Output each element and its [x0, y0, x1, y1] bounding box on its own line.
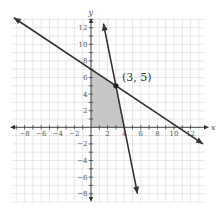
point-label: (3, 5): [122, 71, 152, 84]
y-tick-label: 4: [83, 91, 88, 99]
x-tick-label: 2: [105, 130, 109, 138]
x-tick-label: 6: [139, 130, 144, 138]
y-tick-label: −4: [77, 157, 88, 165]
y-tick-label: −6: [77, 174, 88, 182]
intersection-point: [113, 83, 118, 88]
y-tick-label: 2: [83, 107, 87, 115]
y-tick-label: 10: [79, 41, 88, 49]
arrowhead-icon: [196, 138, 203, 144]
x-tick-label: −2: [69, 130, 79, 138]
x-tick-label: 8: [155, 130, 159, 138]
arrowhead-icon: [133, 186, 139, 193]
arrowhead-icon: [14, 18, 21, 24]
linear-inequality-graph: −8−6−4−224681012−8−6−4−224681012 (3, 5) …: [0, 0, 220, 216]
arrowhead-icon: [102, 24, 108, 31]
x-tick-label: −6: [36, 130, 47, 138]
y-tick-label: −8: [77, 190, 87, 198]
y-tick-label: −2: [77, 140, 87, 148]
x-tick-label: −4: [53, 130, 64, 138]
y-tick-label: 12: [79, 24, 88, 32]
x-tick-label: −8: [19, 130, 29, 138]
y-tick-label: 6: [83, 74, 88, 82]
y-axis-label: y: [88, 8, 94, 17]
x-axis-label: x: [211, 123, 216, 132]
x-tick-label: 10: [170, 130, 179, 138]
